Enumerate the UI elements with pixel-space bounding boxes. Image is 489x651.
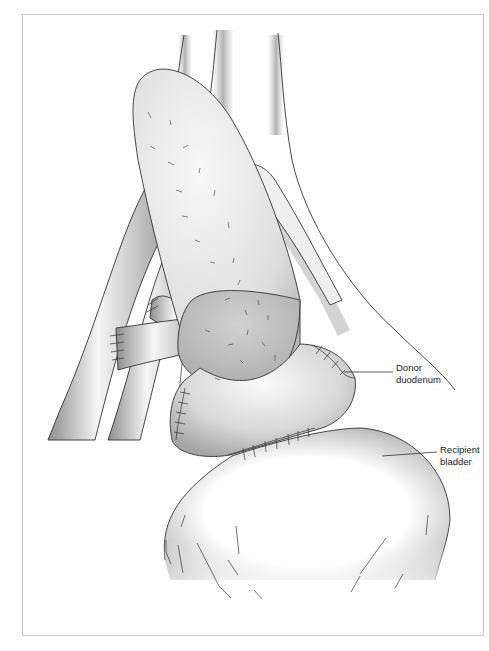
label-line: duodenum [396, 374, 441, 386]
label-line: Donor [396, 362, 441, 374]
label-donor-duodenum: Donor duodenum [396, 362, 441, 386]
label-line: bladder [440, 456, 480, 468]
pancreas-transplant-illustration [0, 0, 489, 651]
label-recipient-bladder: Recipient bladder [440, 444, 480, 468]
label-line: Recipient [440, 444, 480, 456]
